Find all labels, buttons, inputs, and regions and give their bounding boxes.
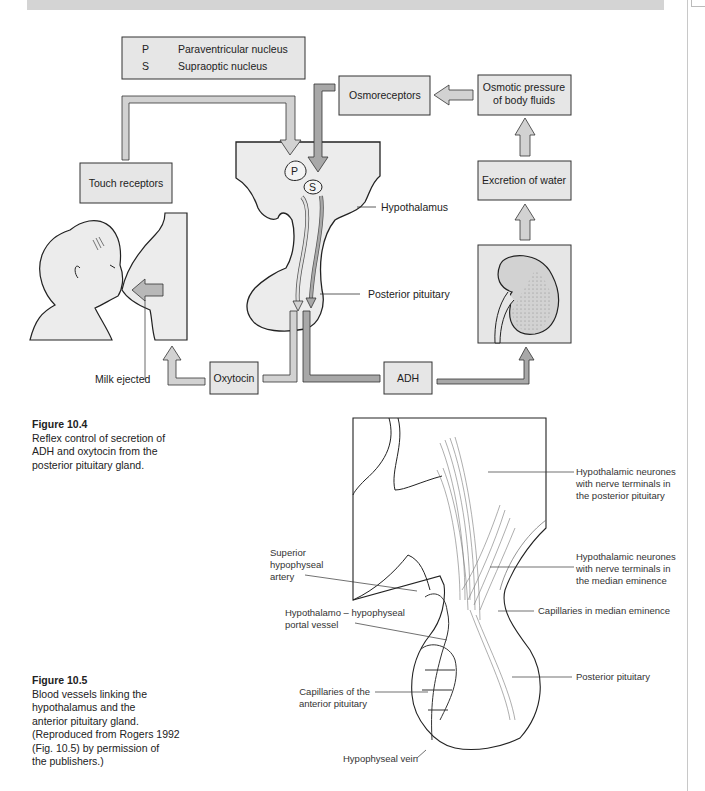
svg-text:Excretion of water: Excretion of water (482, 174, 567, 186)
label-superior-artery-3: artery (270, 571, 295, 582)
svg-text:ADH: ADH (397, 372, 419, 384)
caption-line: (Reproduced from Rogers 1992 (32, 728, 232, 742)
caption-title: Figure 10.4 (32, 418, 232, 432)
caption-line: ADH and oxytocin from the (32, 445, 232, 459)
hypothalamus-pituitary-shape: P S (236, 142, 380, 331)
arrow-osmotic-to-osmoreceptors (434, 85, 473, 105)
box-touch-receptors: Touch receptors (80, 163, 172, 203)
legend-key-s: S (142, 60, 149, 72)
caption-line: the publishers.) (32, 755, 232, 769)
arrow-excretion-to-osmotic (515, 118, 535, 156)
nucleus-s-label: S (309, 181, 316, 193)
box-adh: ADH (384, 362, 432, 394)
label-neurones-median-2: with nerve terminals in (575, 563, 671, 574)
label-posterior-pituitary-2: Posterior pituitary (576, 671, 650, 682)
label-portal-vessel-1: Hypothalamo – hypophyseal (285, 607, 405, 618)
label-neurones-posterior-3: the posterior pituitary (576, 490, 665, 501)
label-hypothalamus: Hypothalamus (381, 201, 448, 213)
nucleus-p-label: P (291, 165, 298, 177)
label-neurones-median-3: the median eminence (576, 575, 667, 586)
label-posterior-pituitary: Posterior pituitary (368, 288, 450, 300)
svg-text:Osmotic pressure: Osmotic pressure (483, 81, 565, 93)
caption-figure-10-5: Figure 10.5 Blood vessels linking the hy… (32, 674, 232, 769)
legend-label-paraventricular: Paraventricular nucleus (178, 43, 288, 55)
caption-title: Figure 10.5 (32, 674, 232, 688)
svg-text:of body fluids: of body fluids (493, 94, 555, 106)
caption-line: Blood vessels linking the (32, 688, 232, 702)
label-portal-vessel-2: portal vessel (285, 619, 338, 630)
figure-10-5-diagram: Hypothalamic neurones with nerve termina… (270, 418, 676, 764)
legend-key-p: P (142, 43, 149, 55)
box-excretion-of-water: Excretion of water (478, 161, 571, 200)
baby-nursing-illustration (30, 213, 187, 380)
box-oxytocin: Oxytocin (210, 362, 258, 394)
label-superior-artery-1: Superior (270, 547, 306, 558)
box-osmotic-pressure: Osmotic pressure of body fluids (478, 75, 571, 115)
label-neurones-median-1: Hypothalamic neurones (576, 551, 676, 562)
label-capillaries-median: Capillaries in median eminence (538, 605, 670, 616)
label-capillaries-anterior-1: Capillaries of the (299, 686, 370, 697)
svg-text:Touch receptors: Touch receptors (89, 177, 164, 189)
caption-line: hypothalamus and the (32, 701, 232, 715)
caption-line: Reflex control of secretion of (32, 432, 232, 446)
caption-line: posterior pituitary gland. (32, 459, 232, 473)
arrow-oxytocin-to-breast (163, 346, 205, 385)
figure-10-4-diagram: P Paraventricular nucleus S Supraoptic n… (30, 37, 571, 394)
label-capillaries-anterior-2: anterior pituitary (299, 698, 367, 709)
svg-text:Oxytocin: Oxytocin (214, 372, 255, 384)
legend-label-supraoptic: Supraoptic nucleus (178, 60, 267, 72)
legend-box: P Paraventricular nucleus S Supraoptic n… (122, 37, 305, 79)
label-hypophyseal-vein: Hypophyseal vein (343, 753, 418, 764)
arrow-adh-to-kidney (437, 347, 534, 384)
svg-text:Osmoreceptors: Osmoreceptors (349, 89, 421, 101)
kidney-illustration (478, 245, 571, 343)
caption-line: anterior pituitary gland. (32, 715, 232, 729)
label-milk-ejected: Milk ejected (95, 373, 151, 385)
label-neurones-posterior-2: with nerve terminals in (575, 478, 671, 489)
label-neurones-posterior-1: Hypothalamic neurones (576, 466, 676, 477)
caption-figure-10-4: Figure 10.4 Reflex control of secretion … (32, 418, 232, 472)
caption-line: (Fig. 10.5) by permission of (32, 742, 232, 756)
arrow-kidney-to-excretion (515, 204, 535, 240)
box-osmoreceptors: Osmoreceptors (339, 76, 430, 115)
label-superior-artery-2: hypophyseal (270, 559, 323, 570)
